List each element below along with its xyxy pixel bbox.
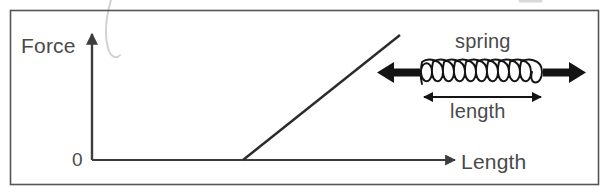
spring-illustration [377, 60, 586, 97]
arrow-left-icon [377, 62, 420, 83]
spring-length-label: length [450, 101, 506, 121]
y-axis-label: Force [21, 35, 76, 56]
spring-force-length-figure: Force 0 Length spring length [0, 0, 609, 194]
origin-label: 0 [72, 150, 83, 169]
spring-coil-icon [421, 60, 542, 84]
x-axis-label: Length [461, 151, 526, 172]
force-length-plot-line [243, 35, 400, 160]
spring-caption-label: spring [455, 31, 511, 51]
arrow-right-icon [543, 62, 586, 83]
